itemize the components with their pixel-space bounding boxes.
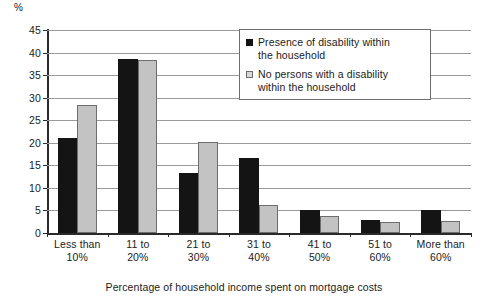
y-axis-tick-label: 0 <box>35 227 41 239</box>
x-axis-category-label: 11 to20% <box>108 238 169 263</box>
x-axis-category-labels: Less than10%11 to20%21 to30%31 to40%41 t… <box>47 238 471 270</box>
bar-group <box>168 30 229 233</box>
chart-legend: Presence of disability withinthe househo… <box>239 29 431 100</box>
x-axis-line <box>47 233 471 235</box>
legend-swatch-icon-light <box>246 71 253 78</box>
bar <box>361 220 381 233</box>
bar <box>421 210 441 233</box>
x-axis-category-label: More than60% <box>410 238 471 263</box>
legend-swatch-icon-dark <box>246 39 253 46</box>
bar <box>239 158 259 233</box>
x-axis-tick-mark <box>350 233 351 237</box>
y-axis-tick-label: 10 <box>29 182 41 194</box>
x-axis-category-label: 41 to50% <box>289 238 350 263</box>
x-axis-tick-mark <box>168 233 169 237</box>
y-axis-tick-label: 5 <box>35 204 41 216</box>
bar <box>441 221 461 233</box>
x-axis-category-label: 31 to40% <box>229 238 290 263</box>
x-axis-category-label: 21 to30% <box>168 238 229 263</box>
bar-chart: % 051015202530354045 Less than10%11 to20… <box>0 0 488 305</box>
x-axis-tick-mark <box>289 233 290 237</box>
y-axis-tick-label: 20 <box>29 137 41 149</box>
y-axis-tick-label: 15 <box>29 159 41 171</box>
bar <box>380 222 400 233</box>
legend-label-line1: No persons with a disability <box>258 68 388 80</box>
bar <box>300 210 320 233</box>
legend-item-no-persons-with-disability: No persons with a disabilitywithin the h… <box>246 68 423 93</box>
y-axis-tick-label: 40 <box>29 47 41 59</box>
bar <box>118 59 138 233</box>
legend-label-line1: Presence of disability within <box>258 36 390 48</box>
category-label-line1: 21 to <box>168 238 229 251</box>
bar <box>320 216 340 233</box>
y-axis-unit-label: % <box>14 2 23 13</box>
legend-item-presence-of-disability: Presence of disability withinthe househo… <box>246 36 423 61</box>
x-axis-tick-mark <box>471 233 472 237</box>
y-axis-tick-label: 35 <box>29 69 41 81</box>
x-axis-tick-mark <box>108 233 109 237</box>
category-label-line1: 31 to <box>229 238 290 251</box>
bar <box>138 60 158 233</box>
category-label-line2: 60% <box>350 251 411 264</box>
bar <box>179 173 199 233</box>
legend-label-no-persons-with-disability: No persons with a disabilitywithin the h… <box>258 68 388 93</box>
y-axis-tick-label: 45 <box>29 24 41 36</box>
category-label-line2: 20% <box>108 251 169 264</box>
x-axis-tick-mark <box>229 233 230 237</box>
category-label-line2: 10% <box>47 251 108 264</box>
y-axis-tick-label: 25 <box>29 114 41 126</box>
bar-group <box>47 30 108 233</box>
category-label-line2: 40% <box>229 251 290 264</box>
x-axis-tick-mark <box>47 233 48 237</box>
bar <box>77 105 97 233</box>
legend-label-line2: the household <box>258 49 325 61</box>
x-axis-category-label: Less than10% <box>47 238 108 263</box>
x-axis-tick-mark <box>410 233 411 237</box>
bar <box>198 142 218 233</box>
x-axis-title: Percentage of household income spent on … <box>0 281 488 293</box>
bar-group <box>108 30 169 233</box>
bar <box>58 138 78 233</box>
category-label-line2: 60% <box>410 251 471 264</box>
category-label-line1: 11 to <box>108 238 169 251</box>
bar <box>259 205 279 233</box>
category-label-line1: More than <box>410 238 471 251</box>
category-label-line1: Less than <box>47 238 108 251</box>
category-label-line2: 50% <box>289 251 350 264</box>
category-label-line1: 41 to <box>289 238 350 251</box>
legend-label-presence-of-disability: Presence of disability withinthe househo… <box>258 36 390 61</box>
y-axis-tick-label: 30 <box>29 92 41 104</box>
category-label-line1: 51 to <box>350 238 411 251</box>
legend-label-line2: within the household <box>258 81 356 93</box>
category-label-line2: 30% <box>168 251 229 264</box>
x-axis-category-label: 51 to60% <box>350 238 411 263</box>
